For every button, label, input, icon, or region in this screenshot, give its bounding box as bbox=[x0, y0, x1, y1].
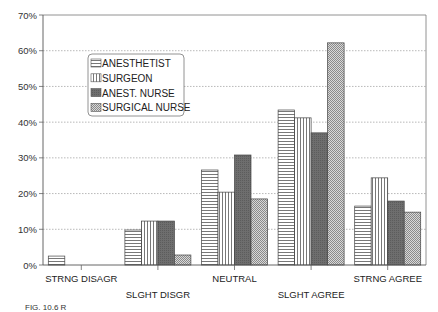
bar bbox=[202, 170, 219, 265]
bar bbox=[141, 221, 158, 265]
bar bbox=[371, 178, 388, 265]
y-tick-label: 20% bbox=[18, 188, 38, 199]
y-tick-label: 40% bbox=[18, 117, 38, 128]
bar bbox=[125, 230, 141, 265]
bar bbox=[158, 221, 175, 265]
legend-label: SURGEON bbox=[102, 73, 153, 84]
bar bbox=[355, 206, 372, 265]
x-tick-label: SLGHT DISGR bbox=[126, 289, 190, 300]
y-tick-label: 30% bbox=[18, 152, 38, 163]
bar bbox=[328, 43, 345, 265]
legend-swatch bbox=[91, 59, 101, 67]
x-tick-label: SLGHT AGREE bbox=[278, 289, 345, 300]
legend-swatch bbox=[91, 74, 101, 82]
legend-label: ANESTHETIST bbox=[102, 58, 171, 69]
bar bbox=[174, 255, 191, 265]
bar-chart: 0%10%20%30%40%50%60%70% STRNG DISAGRSLGH… bbox=[0, 0, 438, 312]
y-tick-label: 60% bbox=[18, 45, 38, 56]
bar bbox=[48, 256, 65, 265]
y-tick-label: 10% bbox=[18, 224, 38, 235]
y-tick-label: 0% bbox=[23, 260, 37, 271]
y-axis: 0%10%20%30%40%50%60%70% bbox=[18, 10, 43, 271]
legend-swatch bbox=[91, 89, 101, 97]
x-axis: STRNG DISAGRSLGHT DISGRNEUTRALSLGHT AGRE… bbox=[45, 265, 422, 300]
figure-caption: FIG. 10.6 R bbox=[25, 303, 66, 312]
bar bbox=[311, 133, 328, 265]
bar bbox=[235, 155, 252, 265]
x-tick-label: NEUTRAL bbox=[212, 273, 256, 284]
bar bbox=[404, 212, 421, 265]
y-tick-label: 70% bbox=[18, 10, 38, 21]
x-tick-label: STRNG DISAGR bbox=[45, 273, 117, 284]
y-tick-label: 50% bbox=[18, 81, 38, 92]
legend-label: ANEST. NURSE bbox=[102, 88, 175, 99]
legend-swatch bbox=[91, 103, 101, 111]
legend: ANESTHETISTSURGEONANEST. NURSESURGICAL N… bbox=[88, 54, 191, 116]
legend-label: SURGICAL NURSE bbox=[102, 102, 191, 113]
bar bbox=[295, 118, 312, 265]
bar bbox=[278, 110, 295, 265]
bar bbox=[388, 201, 405, 265]
bar bbox=[218, 192, 235, 265]
x-tick-label: STRNG AGREE bbox=[353, 273, 422, 284]
bar bbox=[251, 199, 268, 265]
